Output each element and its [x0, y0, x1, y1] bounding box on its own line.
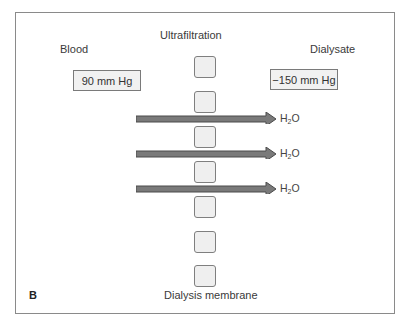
membrane-pore — [194, 231, 216, 253]
diagram-title: Ultrafiltration — [160, 29, 222, 41]
membrane-pore — [194, 161, 216, 183]
water-label: H2O — [280, 182, 300, 195]
arrow-right-icon — [136, 112, 278, 124]
blood-pressure-box: 90 mm Hg — [73, 70, 141, 91]
water-label: H2O — [280, 147, 300, 160]
membrane-label: Dialysis membrane — [164, 289, 258, 301]
arrow-right-icon — [136, 182, 278, 194]
dialysate-label: Dialysate — [310, 43, 355, 55]
water-label: H2O — [280, 112, 300, 125]
membrane-pore — [194, 265, 216, 287]
arrow-right-icon — [136, 147, 278, 159]
panel-label: B — [29, 289, 37, 301]
membrane-pore — [194, 126, 216, 148]
membrane-pore — [194, 91, 216, 113]
dialysate-pressure-box: −150 mm Hg — [270, 69, 338, 90]
membrane-pore — [194, 196, 216, 218]
membrane-pore — [194, 56, 216, 78]
blood-label: Blood — [60, 43, 88, 55]
